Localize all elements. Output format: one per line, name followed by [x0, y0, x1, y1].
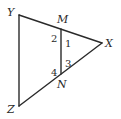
vertex-label-z: Z: [6, 103, 15, 116]
angle-label-3: 3: [65, 58, 71, 69]
angle-label-4: 4: [51, 67, 57, 78]
vertex-label-y: Y: [7, 6, 16, 19]
angle-label-2: 2: [51, 33, 57, 44]
edges: [19, 15, 102, 106]
vertex-labels: YMXNZ: [6, 6, 114, 116]
triangle-figure: YMXNZ 2134: [0, 0, 121, 119]
vertex-label-m: M: [56, 13, 69, 26]
vertex-label-x: X: [104, 37, 114, 50]
geometry-diagram: YMXNZ 2134: [0, 0, 121, 119]
vertex-label-n: N: [56, 78, 67, 91]
angle-label-1: 1: [65, 38, 71, 49]
